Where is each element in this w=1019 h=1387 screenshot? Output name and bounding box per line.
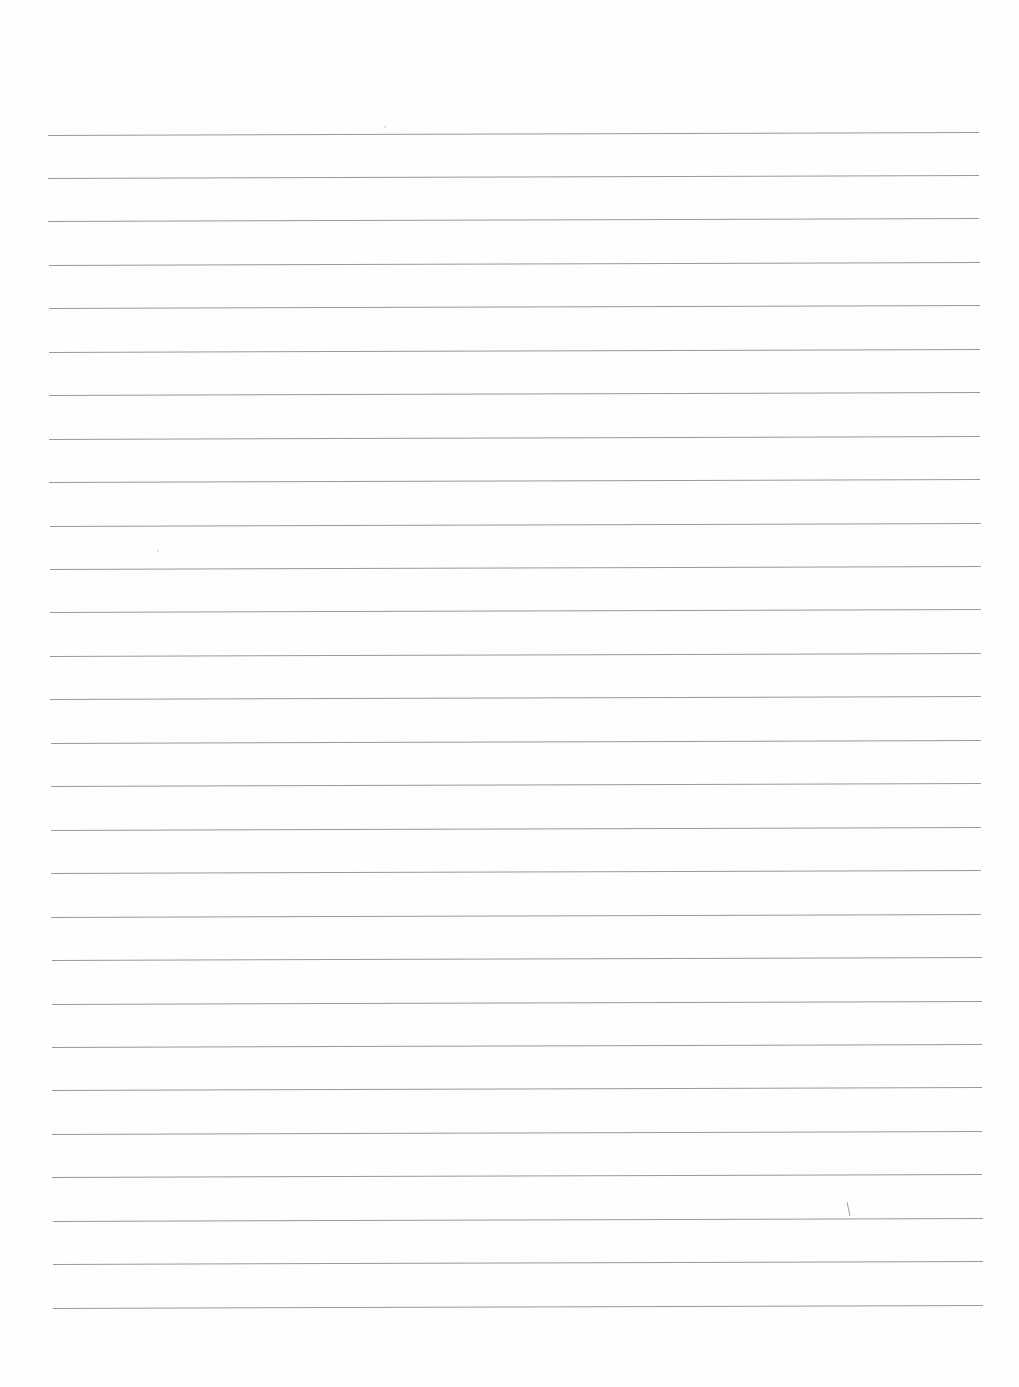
ruled-line xyxy=(49,436,980,440)
ruled-line xyxy=(49,349,980,353)
ruled-line xyxy=(48,175,979,179)
ruled-line xyxy=(51,870,981,874)
ruled-line xyxy=(51,783,981,787)
ruled-line xyxy=(50,610,981,614)
ruled-line xyxy=(49,392,980,396)
ruled-line xyxy=(50,523,981,527)
ruled-line xyxy=(50,566,981,570)
paper-speck xyxy=(384,126,386,128)
paper-speck xyxy=(157,550,159,552)
ruled-line xyxy=(52,1174,982,1178)
ruled-line xyxy=(50,653,981,657)
ruled-line xyxy=(49,305,980,309)
pencil-mark xyxy=(847,1202,851,1216)
ruled-line xyxy=(48,218,979,222)
ruled-line xyxy=(51,914,981,918)
ruled-line xyxy=(48,132,979,136)
ruled-line xyxy=(49,262,980,266)
ruled-line xyxy=(52,1044,982,1048)
lined-paper-page xyxy=(0,0,1019,1387)
ruled-line xyxy=(49,479,980,483)
ruled-line xyxy=(52,1087,982,1091)
ruled-line xyxy=(51,827,981,831)
ruled-line xyxy=(52,957,982,961)
ruled-line xyxy=(53,1218,983,1222)
ruled-line xyxy=(52,1131,982,1135)
ruled-line xyxy=(51,740,981,744)
ruled-line xyxy=(53,1305,983,1309)
ruled-line xyxy=(53,1261,983,1265)
ruled-line xyxy=(52,1001,982,1005)
ruled-line xyxy=(50,696,981,700)
